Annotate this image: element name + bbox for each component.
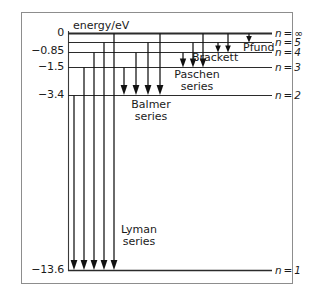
energy-tick-0: 0 bbox=[16, 27, 64, 39]
series-label-pfund: Pfund bbox=[243, 42, 274, 54]
level-label-n-3: n = 3 bbox=[275, 62, 301, 73]
series-label-lyman-line2: series bbox=[108, 236, 170, 248]
energy-tick-minus-13-6: −13.6 bbox=[0, 264, 64, 276]
energy-level-diagram: 0 −0.85 −1.5 −3.4 −13.6 energy/eV n = ∞ … bbox=[0, 0, 314, 298]
energy-tick-minus-1-5: −1.5 bbox=[6, 61, 64, 73]
series-label-balmer-line2: series bbox=[118, 111, 184, 123]
series-label-lyman: Lyman series bbox=[108, 224, 170, 249]
level-label-n-2: n = 2 bbox=[275, 90, 301, 101]
axis-title-energy: energy/eV bbox=[73, 20, 129, 32]
level-label-n-1: n = 1 bbox=[275, 265, 301, 276]
series-label-brackett: Brackett bbox=[192, 52, 238, 64]
series-label-balmer: Balmer series bbox=[118, 99, 184, 124]
series-label-paschen: Paschen series bbox=[162, 69, 232, 94]
energy-tick-minus-3-4: −3.4 bbox=[6, 89, 64, 101]
energy-tick-minus-0-85: −0.85 bbox=[6, 45, 64, 57]
level-label-n-4: n = 4 bbox=[275, 47, 301, 58]
series-label-paschen-line2: series bbox=[162, 81, 232, 93]
